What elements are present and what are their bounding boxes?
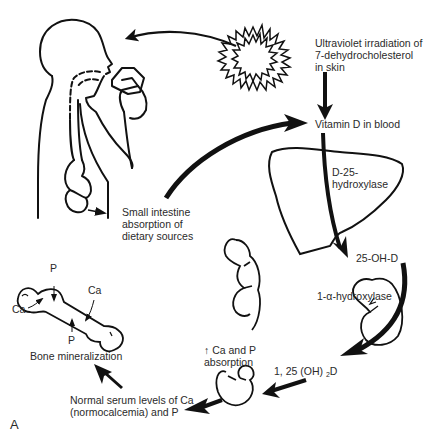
label-bone-p-bottom: P (68, 334, 75, 346)
arrow-to-small-intestine (88, 210, 104, 213)
arrow-ca-left (28, 299, 42, 308)
intestine-icon (216, 239, 260, 405)
label-normal-serum-levels: Normal serum levels of Ca (normocalcemia… (70, 394, 194, 418)
label-d25-hydroxylase: D-25- hydroxylase (332, 166, 388, 190)
label-1-alpha-hydroxylase: 1-α-hydroxylase (317, 290, 392, 302)
arrow-head-bone (94, 364, 112, 384)
label-bone-ca-right: Ca (88, 284, 101, 296)
panel-label: A (10, 418, 19, 432)
vitamin-d-metabolism-diagram: Ultraviolet irradiation of 7-dehydrochol… (0, 0, 429, 436)
label-calcitriol: 1, 25 (OH) 2D (274, 365, 337, 381)
label-bone-mineralization: Bone mineralization (30, 350, 122, 362)
label-bone-p-top: P (50, 262, 57, 274)
sun-icon (218, 25, 290, 90)
human-figure-icon (38, 20, 147, 218)
label-small-intestine: Small intestine absorption of dietary so… (122, 206, 193, 242)
label-uv-irradiation: Ultraviolet irradiation of 7-dehydrochol… (315, 37, 422, 73)
label-25-oh-d: 25-OH-D (356, 252, 398, 264)
label-bone-ca-left: Ca (12, 303, 25, 315)
label-ca-p-absorption: ↑ Ca and P absorption (204, 344, 256, 368)
arrow-sun-to-skin (128, 32, 236, 46)
label-vitamin-d-blood: Vitamin D in blood (315, 118, 400, 130)
